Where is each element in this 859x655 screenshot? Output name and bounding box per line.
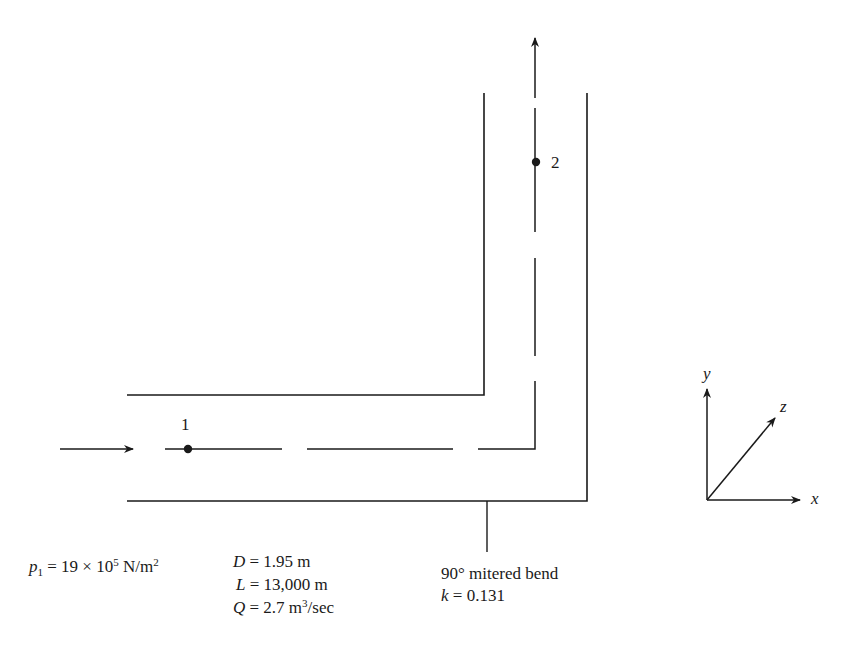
pressure-symbol: p xyxy=(29,557,38,576)
flow-rate-unit: /sec xyxy=(308,598,334,617)
bend-type-label: 90° mitered bend xyxy=(441,564,558,584)
diameter-value: = 1.95 m xyxy=(245,552,310,571)
length-value: = 13,000 m xyxy=(245,575,327,594)
length-label: L = 13,000 m xyxy=(236,575,328,595)
pipe-outer-wall xyxy=(127,93,587,501)
pressure-value: = 19 × 10 xyxy=(43,557,113,576)
point-2-marker xyxy=(532,158,540,166)
loss-coefficient-value: = 0.131 xyxy=(449,586,505,605)
flow-rate-value: = 2.7 m xyxy=(245,598,302,617)
z-axis-arrow xyxy=(707,418,775,500)
diameter-label: D = 1.95 m xyxy=(233,552,311,572)
pressure-unit: N/m xyxy=(119,557,153,576)
loss-coefficient-label: k = 0.131 xyxy=(441,586,505,606)
inlet-pressure-label: p1 = 19 × 105 N/m2 xyxy=(29,557,159,577)
point-2-label: 2 xyxy=(551,153,560,173)
diameter-symbol: D xyxy=(233,552,245,571)
x-axis-label: x xyxy=(811,489,819,509)
loss-coefficient-symbol: k xyxy=(441,586,449,605)
point-1-label: 1 xyxy=(181,415,190,435)
z-axis-label: z xyxy=(780,397,787,417)
flow-rate-label: Q = 2.7 m3/sec xyxy=(233,598,334,618)
point-1-marker xyxy=(184,445,192,453)
pipe-inner-wall xyxy=(127,93,484,395)
pipe-centerline xyxy=(165,108,535,449)
pressure-unit-exponent: 2 xyxy=(153,556,159,568)
y-axis-label: y xyxy=(703,364,711,384)
flow-rate-symbol: Q xyxy=(233,598,245,617)
